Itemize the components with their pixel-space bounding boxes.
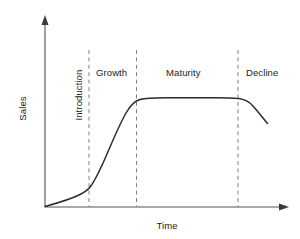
product-life-cycle-chart: Sales Time Introduction Growth Maturity … — [0, 0, 300, 239]
stage-label-decline: Decline — [246, 67, 278, 78]
x-axis — [45, 204, 289, 211]
x-axis-label: Time — [147, 220, 187, 231]
y-axis — [42, 15, 49, 207]
chart-canvas — [0, 0, 300, 239]
stage-label-introduction: Introduction — [73, 73, 84, 121]
stage-label-growth: Growth — [96, 67, 127, 78]
y-axis-label: Sales — [17, 91, 28, 127]
stage-label-maturity: Maturity — [166, 67, 201, 78]
